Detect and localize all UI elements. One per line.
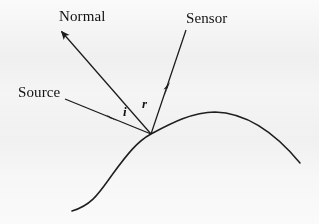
diagram-canvas bbox=[0, 0, 319, 224]
reflection-geometry-diagram: Normal Sensor Source i r bbox=[0, 0, 319, 224]
sensor-ray-line bbox=[151, 30, 186, 134]
sensor-label: Sensor bbox=[186, 11, 227, 26]
normal-label: Normal bbox=[59, 9, 105, 24]
angle-of-reflection-label: r bbox=[142, 97, 147, 110]
source-ray-line bbox=[65, 99, 151, 134]
surface-curve bbox=[72, 112, 300, 211]
angle-of-incidence-label: i bbox=[123, 105, 127, 118]
source-ray-arrowhead bbox=[101, 114, 116, 120]
source-label: Source bbox=[18, 85, 60, 100]
normal-ray-line bbox=[62, 32, 152, 135]
